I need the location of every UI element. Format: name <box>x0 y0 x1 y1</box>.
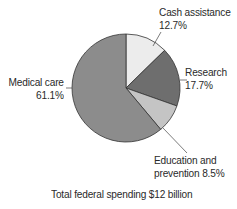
label-value: 12.7% <box>159 19 231 32</box>
label-education: Education and prevention 8.5% <box>154 154 225 180</box>
label-text: Medical care <box>9 76 64 89</box>
leader-line-education <box>163 128 187 153</box>
label-cash-assistance: Cash assistance 12.7% <box>159 6 231 32</box>
label-research: Research 17.7% <box>185 66 227 92</box>
label-text: Cash assistance <box>159 6 231 19</box>
label-text: Education and <box>154 154 225 167</box>
label-value: 17.7% <box>185 79 227 92</box>
chart-caption: Total federal spending $12 billion <box>51 188 192 201</box>
label-medical-care: Medical care 61.1% <box>9 76 64 102</box>
label-value: prevention 8.5% <box>154 167 225 180</box>
label-value: 61.1% <box>9 89 64 102</box>
label-text: Research <box>185 66 227 79</box>
